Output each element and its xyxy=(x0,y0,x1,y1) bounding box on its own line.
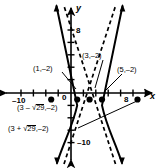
right-focus-dot xyxy=(134,96,140,102)
y-tick-label-8: 8 xyxy=(76,27,80,35)
left-vertex-dot xyxy=(74,96,80,102)
x-axis-label: x xyxy=(150,92,155,101)
leader-3-neg2 xyxy=(95,60,103,88)
ann3-suffix: ,–2) xyxy=(44,103,57,112)
radical-bar-right xyxy=(27,125,35,126)
annotation-5-neg2: (5,–2) xyxy=(117,66,137,74)
radical-sign-left: √29 xyxy=(32,104,44,112)
ann3-prefix: (3 – xyxy=(17,103,32,112)
leader-1-neg2 xyxy=(62,72,76,89)
origin-label: 0 xyxy=(62,94,66,102)
annotation-3-neg2: (3,–2) xyxy=(82,52,102,60)
radical-sign-right: √29 xyxy=(23,125,35,133)
annotation-1-neg2: (1,–2) xyxy=(33,65,53,73)
y-tick-label-neg10: –10 xyxy=(77,139,90,147)
y-axis-label: y xyxy=(76,4,81,13)
radical-bar-left xyxy=(36,104,44,105)
hyperbola-right-branch xyxy=(102,6,123,163)
x-tick-label-8: 8 xyxy=(124,96,128,104)
ann4-prefix: (3 + xyxy=(8,124,23,133)
annotation-3-minus-sqrt29-neg2: (3 – √29,–2) xyxy=(17,104,57,112)
hyperbola-diagram: y x 0 –10 8 8 –10 (1,–2) (3,–2) (5,–2) (… xyxy=(0,0,160,168)
center-dot xyxy=(87,96,93,102)
ann4-suffix: ,–2) xyxy=(36,124,49,133)
left-focus-dot xyxy=(48,96,54,102)
annotation-3-plus-sqrt29-neg2: (3 + √29,–2) xyxy=(8,125,49,133)
right-vertex-dot xyxy=(99,96,105,102)
